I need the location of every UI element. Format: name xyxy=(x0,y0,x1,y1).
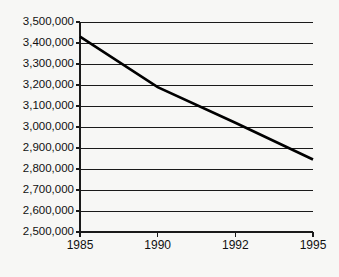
y-axis-tick-label: 3,000,000 xyxy=(23,120,74,132)
x-axis-tick-label: 1990 xyxy=(144,238,171,252)
y-axis-tick-label: 3,200,000 xyxy=(23,78,74,90)
y-axis-tick-label: 3,500,000 xyxy=(23,15,74,27)
chart-container: 2,500,0002,600,0002,700,0002,800,0002,90… xyxy=(0,0,339,277)
y-axis-tick-label: 2,500,000 xyxy=(23,225,74,237)
y-axis-tick-label: 3,100,000 xyxy=(23,99,74,111)
y-axis-tick-label: 3,300,000 xyxy=(23,57,74,69)
y-axis-tick-label: 3,400,000 xyxy=(23,36,74,48)
y-axis-tick-label: 2,800,000 xyxy=(23,162,74,174)
y-axis-tick-label: 2,600,000 xyxy=(23,204,74,216)
line-chart: 2,500,0002,600,0002,700,0002,800,0002,90… xyxy=(0,0,339,277)
y-axis-tick-label: 2,700,000 xyxy=(23,183,74,195)
x-axis-tick-label: 1995 xyxy=(300,238,327,252)
x-axis-tick-label: 1992 xyxy=(222,238,249,252)
y-axis-tick-label: 2,900,000 xyxy=(23,141,74,153)
x-axis-tick-label: 1985 xyxy=(67,238,94,252)
